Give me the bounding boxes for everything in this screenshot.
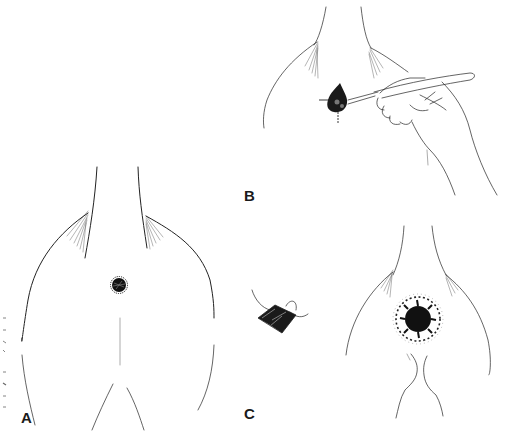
surgical-illustration (0, 0, 508, 438)
panel-c-drawing (346, 226, 490, 418)
excised-specimen (252, 290, 308, 333)
panel-label-b: B (244, 188, 255, 203)
lesion-a (111, 277, 128, 294)
edge-tick-marks (3, 318, 6, 407)
wound-c (393, 294, 443, 344)
hand (377, 78, 497, 195)
panel-label-a: A (21, 410, 32, 425)
panel-label-c: C (244, 406, 255, 421)
panel-a-drawing (22, 167, 214, 430)
panel-b-drawing (263, 7, 497, 195)
lesion-b (319, 83, 347, 123)
